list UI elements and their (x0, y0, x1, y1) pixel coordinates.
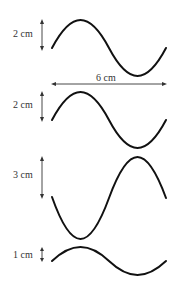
vertical-arrow-icon-4 (40, 247, 44, 262)
wave-1-curve (52, 20, 166, 76)
vertical-arrow-icon-2 (40, 91, 44, 122)
wave-1-group: 2 cm (13, 19, 166, 76)
wave-2-group: 2 cm (13, 91, 166, 148)
amplitude-label-1: 2 cm (13, 28, 33, 39)
vertical-arrow-icon-1 (40, 19, 44, 51)
amplitude-label-4: 1 cm (13, 249, 33, 260)
wave-diagram: 2 cm 6 cm 2 cm 3 cm 1 (0, 0, 175, 289)
wave-4-group: 1 cm (13, 247, 166, 275)
amplitude-label-2: 2 cm (13, 99, 33, 110)
wave-3-group: 3 cm (13, 156, 166, 239)
wave-2-curve (52, 92, 166, 148)
wave-4-curve (52, 247, 166, 275)
wave-3-curve (52, 157, 166, 239)
vertical-arrow-icon-3 (40, 156, 44, 199)
amplitude-label-3: 3 cm (13, 169, 33, 180)
wavelength-arrow: 6 cm (51, 72, 167, 86)
wavelength-label: 6 cm (96, 72, 116, 83)
